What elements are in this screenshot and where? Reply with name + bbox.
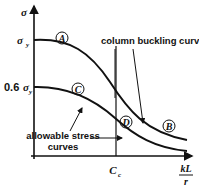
svg-text:r: r [184, 176, 188, 187]
cc-label: C c [109, 164, 121, 179]
svg-text:c: c [118, 171, 121, 179]
svg-text:C: C [109, 164, 117, 176]
svg-text:D: D [121, 117, 129, 128]
x-axis-label: kL r [179, 163, 193, 187]
svg-text:0.6: 0.6 [4, 81, 19, 93]
column-buckling-curve [34, 40, 187, 140]
marker-a: A [56, 32, 68, 44]
allowable-stress-annotation-line2: curves [48, 141, 79, 152]
svg-text:C: C [75, 84, 82, 95]
marker-c: C [72, 83, 84, 95]
y-axis-label: σ [21, 6, 28, 18]
svg-text:y: y [28, 88, 33, 96]
marker-d: D [120, 116, 132, 128]
allowable-stress-annotation-line1: allowable stress [26, 130, 99, 141]
column-curve-diagram: A C D B σ σ y 0.6 σ y C c kL r column bu… [0, 0, 199, 187]
point-six-sigma-y-label: 0.6 σ y [4, 81, 33, 96]
svg-text:A: A [58, 33, 66, 44]
svg-text:kL: kL [180, 163, 191, 174]
sigma-y-label: σ y [17, 34, 30, 49]
svg-text:y: y [25, 41, 30, 49]
marker-b: B [163, 120, 175, 132]
column-buckling-annotation: column buckling curves [101, 35, 199, 46]
svg-text:B: B [165, 121, 173, 132]
svg-text:σ: σ [17, 34, 24, 46]
leader-buckling-b [133, 49, 143, 123]
leader-allowable-c [70, 108, 82, 131]
